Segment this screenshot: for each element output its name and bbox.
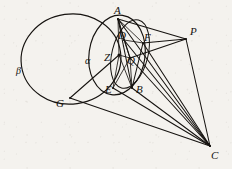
point-Z	[118, 54, 121, 57]
segment-FC	[143, 43, 210, 146]
point-label-Z: Z	[104, 52, 110, 63]
segment-BC	[132, 88, 210, 146]
point-C	[209, 145, 211, 147]
geometry-figure: ADFPZQEBGCαβ	[0, 0, 232, 169]
point-label-G: G	[56, 98, 64, 109]
point-label-B: B	[136, 84, 143, 95]
curve-label-alpha: α	[85, 56, 90, 66]
segment-EC	[113, 88, 210, 146]
point-label-F: F	[144, 32, 151, 43]
segment-GC	[70, 98, 210, 146]
point-B	[131, 87, 133, 89]
point-label-E: E	[105, 84, 112, 95]
point-G	[69, 97, 71, 99]
point-label-C: C	[211, 150, 218, 161]
point-label-D: D	[118, 30, 126, 41]
point-A	[117, 18, 119, 20]
curve-label-beta: β	[16, 66, 21, 76]
point-label-Q: Q	[127, 55, 135, 66]
point-label-A: A	[114, 5, 121, 16]
point-label-P: P	[190, 26, 197, 37]
figure-canvas	[0, 0, 232, 169]
point-E	[112, 87, 114, 89]
point-P	[185, 38, 187, 40]
